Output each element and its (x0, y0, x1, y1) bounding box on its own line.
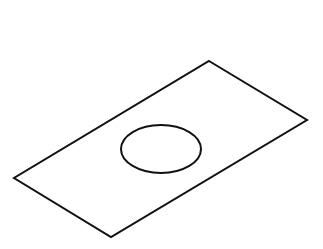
plate-outline (14, 61, 307, 237)
plate-diagram (0, 0, 323, 249)
circular-hole (121, 125, 201, 173)
